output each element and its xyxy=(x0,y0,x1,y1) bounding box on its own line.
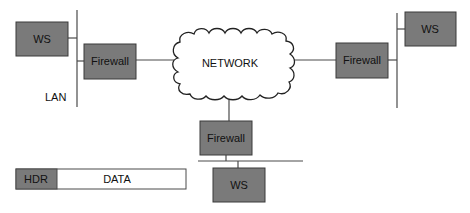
right-workstation-label: WS xyxy=(421,23,439,35)
packet-data-label: DATA xyxy=(103,173,131,185)
packet: HDR DATA xyxy=(16,169,186,189)
bottom-firewall-label: Firewall xyxy=(207,132,245,144)
right-firewall[interactable]: Firewall xyxy=(336,43,388,78)
lan-label: LAN xyxy=(45,91,66,103)
network-label: NETWORK xyxy=(202,57,259,69)
left-firewall[interactable]: Firewall xyxy=(84,44,136,79)
left-workstation[interactable]: WS xyxy=(16,22,68,56)
right-workstation[interactable]: WS xyxy=(405,12,456,46)
right-firewall-label: Firewall xyxy=(343,54,381,66)
bottom-firewall[interactable]: Firewall xyxy=(200,121,252,155)
packet-header-label: HDR xyxy=(24,173,48,185)
left-workstation-label: WS xyxy=(33,33,51,45)
bottom-workstation-label: WS xyxy=(230,179,248,191)
left-firewall-label: Firewall xyxy=(91,55,129,67)
bottom-workstation[interactable]: WS xyxy=(213,168,265,202)
network-diagram: NETWORK WS Firewall LAN Firewall WS Fire… xyxy=(0,0,470,213)
